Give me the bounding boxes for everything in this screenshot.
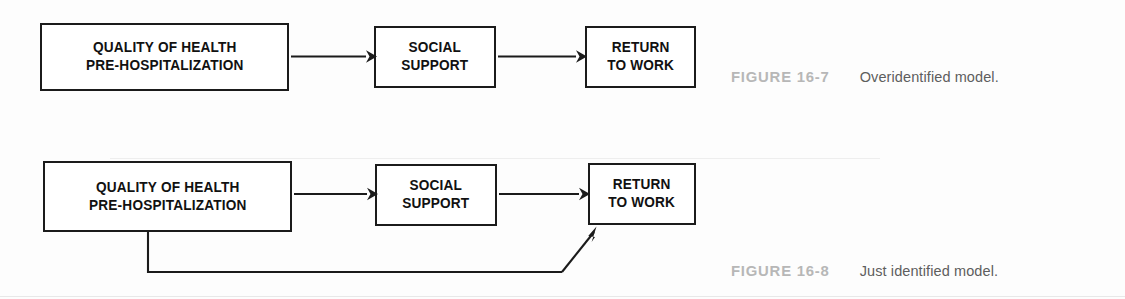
figure-caption: FIGURE 16-8 Just identified model. bbox=[731, 262, 998, 280]
figure-16-8: QUALITY OF HEALTH PRE-HOSPITALIZATION SO… bbox=[0, 140, 1125, 299]
node-social-support[interactable]: SOCIAL SUPPORT bbox=[374, 26, 496, 88]
arrow-social-to-return bbox=[498, 50, 587, 63]
node-return-to-work[interactable]: RETURN TO WORK bbox=[585, 26, 696, 88]
figure-caption-text: Overidentified model. bbox=[860, 69, 999, 85]
node-return-to-work[interactable]: RETURN TO WORK bbox=[588, 163, 696, 225]
path-diagram-overidentified: QUALITY OF HEALTH PRE-HOSPITALIZATION SO… bbox=[0, 0, 740, 140]
figure-caption: FIGURE 16-7 Overidentified model. bbox=[731, 68, 999, 86]
document-page: QUALITY OF HEALTH PRE-HOSPITALIZATION SO… bbox=[0, 0, 1125, 299]
node-label: RETURN TO WORK bbox=[607, 39, 674, 75]
node-social-support[interactable]: SOCIAL SUPPORT bbox=[375, 164, 497, 226]
node-quality-of-health[interactable]: QUALITY OF HEALTH PRE-HOSPITALIZATION bbox=[43, 161, 292, 232]
arrow-social-to-return bbox=[499, 188, 590, 201]
node-label: QUALITY OF HEALTH PRE-HOSPITALIZATION bbox=[89, 179, 247, 215]
node-label: QUALITY OF HEALTH PRE-HOSPITALIZATION bbox=[86, 39, 244, 75]
path-diagram-just-identified: QUALITY OF HEALTH PRE-HOSPITALIZATION SO… bbox=[0, 140, 740, 299]
arrow-quality-to-social bbox=[294, 188, 378, 201]
figure-caption-label: FIGURE 16-7 bbox=[731, 68, 830, 86]
arrow-quality-to-social bbox=[291, 50, 377, 63]
figure-16-7: QUALITY OF HEALTH PRE-HOSPITALIZATION SO… bbox=[0, 0, 1125, 140]
arrow-quality-to-return-direct bbox=[148, 227, 597, 273]
figure-caption-text: Just identified model. bbox=[860, 263, 998, 279]
node-label: SOCIAL SUPPORT bbox=[402, 177, 469, 213]
node-label: SOCIAL SUPPORT bbox=[401, 39, 468, 75]
node-label: RETURN TO WORK bbox=[609, 176, 676, 212]
node-quality-of-health[interactable]: QUALITY OF HEALTH PRE-HOSPITALIZATION bbox=[40, 23, 289, 91]
figure-caption-label: FIGURE 16-8 bbox=[731, 262, 830, 280]
